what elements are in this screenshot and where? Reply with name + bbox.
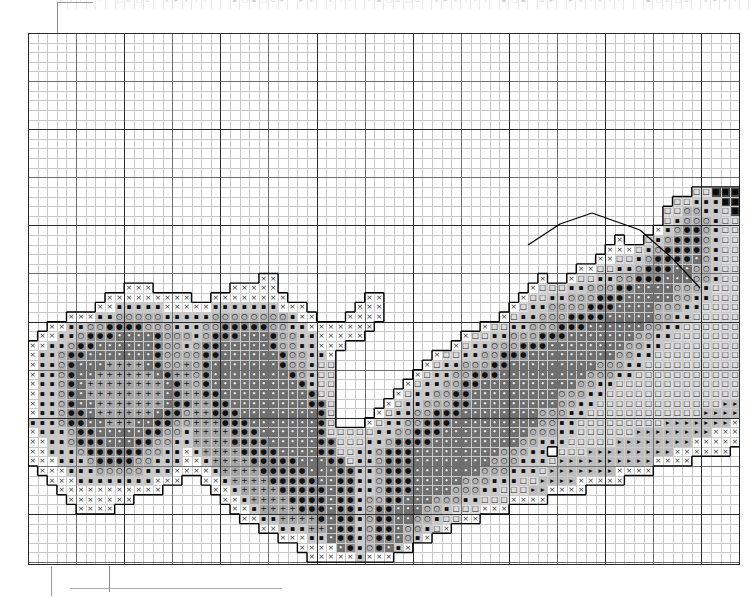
stitch-cell: ×	[182, 456, 192, 466]
stitch-cell: ×	[586, 264, 596, 274]
stitch-cell: □	[721, 293, 731, 303]
stitch-cell: ○	[682, 283, 692, 293]
stitch-cell: ×	[461, 331, 471, 341]
stitch-cell: •	[278, 389, 288, 399]
stitch-cell: ×	[365, 322, 375, 332]
stitch-cell: ●	[490, 360, 500, 370]
stitch-cell: •	[499, 437, 509, 447]
stitch-cell: ×	[57, 476, 67, 486]
stitch-cell: +	[307, 524, 317, 534]
stitch-cell: ○	[259, 312, 269, 322]
stitch-cell: •	[124, 350, 134, 360]
stitch-cell: □	[721, 235, 731, 245]
stitch-cell: •	[115, 350, 125, 360]
cutoff-symbol: x	[309, 0, 313, 5]
stitch-cell: ○	[605, 283, 615, 293]
stitch-cell: •	[163, 379, 173, 389]
stitch-cell: ●	[269, 331, 279, 341]
stitch-cell: ×	[307, 322, 317, 332]
stitch-cell: ●	[211, 408, 221, 418]
stitch-cell: ▪	[38, 408, 48, 418]
stitch-cell: □	[355, 427, 365, 437]
cutoff-symbol: +	[482, 0, 488, 5]
stitch-cell: •	[461, 456, 471, 466]
stitch-cell: □	[721, 370, 731, 380]
stitch-cell: □	[644, 389, 654, 399]
stitch-cell: ○	[172, 427, 182, 437]
stitch-cell: ×	[134, 293, 144, 303]
stitch-cell: □	[365, 427, 375, 437]
stitch-cell: ▸	[692, 418, 702, 428]
stitch-cell: •	[249, 350, 259, 360]
stitch-cell: ▪	[547, 437, 557, 447]
stitch-cell: +	[95, 370, 105, 380]
cutoff-symbol: □	[242, 0, 249, 5]
stitch-cell: •	[567, 331, 577, 341]
stitch-cell: ○	[673, 283, 683, 293]
stitch-cell: ○	[269, 322, 279, 332]
stitch-cell: ●	[538, 341, 548, 351]
stitch-cell: ○	[490, 466, 500, 476]
stitch-cell: +	[95, 379, 105, 389]
stitch-cell: ×	[288, 533, 298, 543]
stitch-cell: ●	[211, 350, 221, 360]
stitch-cell: +	[211, 456, 221, 466]
stitch-cell: ●	[230, 322, 240, 332]
stitch-cell: □	[730, 370, 740, 380]
stitch-cell: □	[673, 331, 683, 341]
stitch-cell: ▸	[711, 418, 721, 428]
stitch-cell: •	[95, 341, 105, 351]
stitch-cell: ▪	[644, 341, 654, 351]
stitch-cell: ▸	[557, 476, 567, 486]
stitch-cell: ▪	[355, 476, 365, 486]
stitch-cell: □	[644, 360, 654, 370]
stitch-cell: •	[461, 418, 471, 428]
stitch-cell: ×	[249, 283, 259, 293]
stitch-cell: •	[576, 341, 586, 351]
stitch-cell: ▪	[76, 322, 86, 332]
stitch-cell: ×	[692, 437, 702, 447]
stitch-cell: ×	[345, 331, 355, 341]
stitch-cell: ▪	[682, 302, 692, 312]
stitch-cell: ●	[326, 447, 336, 457]
stitch-cell: ●	[403, 437, 413, 447]
stitch-cell: +	[95, 408, 105, 418]
stitch-cell: •	[528, 408, 538, 418]
stitch-cell: ▪	[624, 360, 634, 370]
stitch-cell: ○	[451, 379, 461, 389]
stitch-cell: ▪	[365, 476, 375, 486]
stitch-cell: ○	[547, 322, 557, 332]
pattern-chart[interactable]: □□■■■□□▪▪▪■■□□○○▪▪□■□▪○○○▪□□×▪○●●○▪□□×□▪…	[28, 33, 740, 565]
stitch-cell: •	[249, 389, 259, 399]
stitch-cell: +	[124, 360, 134, 370]
stitch-cell: □	[557, 447, 567, 457]
stitch-cell: ×	[269, 274, 279, 284]
stitch-cell: ○	[490, 456, 500, 466]
stitch-cell: ▪	[76, 476, 86, 486]
stitch-cell: ●	[240, 447, 250, 457]
stitch-cell: ×	[297, 533, 307, 543]
stitch-cell: □	[615, 418, 625, 428]
stitch-cell: ×	[230, 293, 240, 303]
stitch-cell: ●	[269, 466, 279, 476]
stitch-cell: ○	[95, 322, 105, 332]
stitch-cell: •	[259, 427, 269, 437]
stitch-cell: •	[115, 437, 125, 447]
stitch-cell: ×	[663, 456, 673, 466]
stitch-cell: ▪	[307, 360, 317, 370]
stitch-cell: •	[422, 495, 432, 505]
stitch-cell: ●	[76, 418, 86, 428]
stitch-cell: ●	[567, 322, 577, 332]
stitch-cell: •	[317, 476, 327, 486]
stitch-cell: ▪	[192, 331, 202, 341]
stitch-cell: ○	[701, 254, 711, 264]
stitch-cell: ●	[403, 485, 413, 495]
stitch-cell: ○	[576, 293, 586, 303]
stitch-cell: ●	[461, 379, 471, 389]
stitch-cell: +	[192, 418, 202, 428]
stitch-cell: ▪	[182, 312, 192, 322]
stitch-cell: □	[519, 302, 529, 312]
stitch-cell: •	[413, 447, 423, 457]
stitch-cell: □	[394, 399, 404, 409]
stitch-cell: ×	[124, 293, 134, 303]
